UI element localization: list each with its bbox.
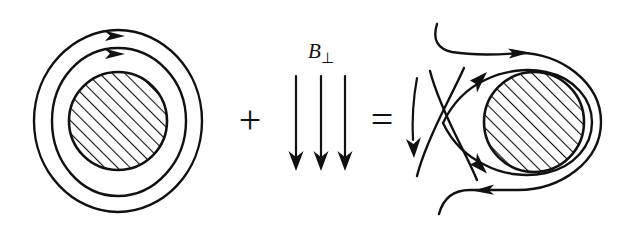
b-perp-base: B — [308, 39, 321, 63]
b-perp-subscript: ⊥ — [321, 50, 334, 66]
plus-operator: + — [239, 97, 262, 142]
field-superposition-diagram: + B⊥ = — [0, 0, 621, 235]
figure-root: + B⊥ = — [0, 0, 621, 235]
equals-operator: = — [371, 97, 394, 142]
